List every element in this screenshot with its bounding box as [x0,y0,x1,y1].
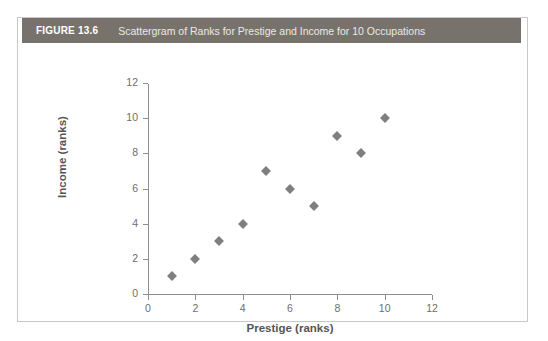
x-tick-label: 10 [372,302,398,314]
figure-title-label: Scattergram of Ranks for Prestige and In… [118,25,425,37]
x-tick-mark [195,295,196,300]
y-tick-label: 8 [112,146,138,158]
x-tick-mark [148,295,149,300]
x-tick-label: 8 [324,302,350,314]
y-tick-mark [143,259,148,260]
x-tick-label: 0 [135,302,161,314]
data-point [380,113,390,123]
x-tick-label: 12 [419,302,445,314]
y-tick-mark [143,189,148,190]
figure-frame: FIGURE 13.6 Scattergram of Ranks for Pre… [17,17,528,322]
y-tick-label: 2 [112,252,138,264]
x-tick-mark [290,295,291,300]
x-tick-mark [432,295,433,300]
y-axis-line [148,84,149,295]
data-point [190,254,200,264]
x-axis-title: Prestige (ranks) [148,322,432,334]
data-point [167,271,177,281]
data-point [238,219,248,229]
y-tick-mark [143,118,148,119]
x-tick-label: 4 [230,302,256,314]
figure-number-label: FIGURE 13.6 [36,25,98,36]
x-tick-mark [337,295,338,300]
y-tick-label: 10 [112,111,138,123]
x-tick-label: 6 [277,302,303,314]
data-point [309,201,319,211]
y-tick-mark [143,224,148,225]
data-point [214,236,224,246]
y-tick-mark [143,153,148,154]
data-point [261,166,271,176]
x-tick-mark [243,295,244,300]
y-tick-label: 6 [112,182,138,194]
x-tick-label: 2 [182,302,208,314]
y-tick-mark [143,83,148,84]
y-tick-label: 0 [112,287,138,299]
data-point [285,184,295,194]
figure-header-bar: FIGURE 13.6 Scattergram of Ranks for Pre… [22,18,521,43]
y-tick-label: 12 [112,76,138,88]
scatter-plot: 024681012 024681012 Income (ranks) Prest… [18,43,527,321]
y-tick-label: 4 [112,217,138,229]
data-point [356,148,366,158]
x-tick-mark [385,295,386,300]
y-axis-title: Income (ranks) [56,87,68,227]
data-point [332,131,342,141]
